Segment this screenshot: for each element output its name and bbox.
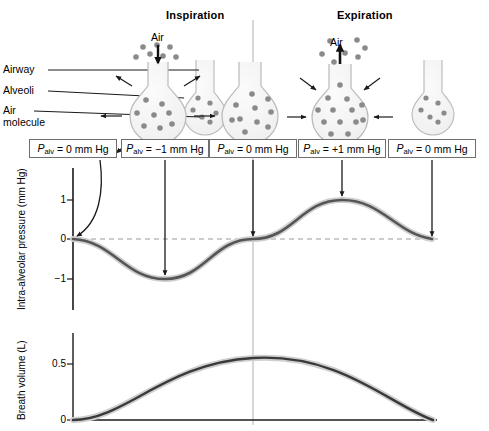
air-label-expiration: Air	[330, 36, 343, 48]
anatomy-label-air-molecule-line2: molecule	[3, 117, 45, 128]
pressure-symbol: Palv	[303, 142, 320, 156]
air-label-inspiration: Air	[151, 31, 164, 43]
pressure-symbol: Palv	[37, 142, 54, 156]
pressure-annotation-arrows	[77, 160, 432, 275]
phase-title-expiration: Expiration	[337, 9, 393, 21]
anatomy-label-airway: Airway	[3, 64, 35, 75]
pressure-symbol: Palv	[126, 142, 143, 156]
alveolus-rest-end	[412, 60, 454, 135]
anatomy-label-alveoli: Alveoli	[3, 85, 34, 96]
pressure-value: = 0 mm Hg	[54, 143, 109, 155]
air-molecules-outside	[133, 42, 179, 60]
alveolus-rest-start	[184, 60, 226, 135]
air-molecules-outside	[319, 37, 368, 65]
alveolus-expiration	[287, 37, 393, 152]
phase-title-inspiration: Inspiration	[166, 9, 224, 21]
pressure-value: = 0 mm Hg	[234, 143, 289, 155]
pressure-box-3: Palv = 0 mm Hg	[209, 139, 297, 158]
pressure-box-1: Palv = 0 mm Hg	[29, 139, 117, 158]
respiratory-cycle-figure	[0, 0, 489, 431]
pressure-box-5: Palv = 0 mm Hg	[388, 139, 476, 158]
pressure-value: = 0 mm Hg	[413, 143, 468, 155]
breath-volume-chart-tick-0.5: 0.5	[20, 358, 66, 369]
pressure-box-2: Palv = −1 mm Hg	[121, 139, 209, 158]
pressure-symbol: Palv	[217, 142, 234, 156]
anatomy-label-air-molecule-line1: Air	[3, 105, 16, 116]
pressure-value: = +1 mm Hg	[320, 143, 381, 155]
pressure-value: = −1 mm Hg	[143, 143, 204, 155]
intra-alveolar-pressure-chart-tick-0: 0	[20, 233, 66, 244]
annotation-arrow-0	[77, 160, 101, 236]
breath-volume-chart-tick-0: 0	[20, 414, 66, 425]
intra-alveolar-pressure-chart-tick-−1: −1	[20, 273, 66, 284]
breath-volume-chart	[67, 333, 437, 420]
intra-alveolar-pressure-chart-tick-1: 1	[20, 194, 66, 205]
volume-axis-title: Breath volume (L)	[16, 341, 27, 420]
alveolus-mid	[222, 62, 278, 144]
pressure-symbol: Palv	[396, 142, 413, 156]
pressure-box-4: Palv = +1 mm Hg	[298, 139, 386, 158]
